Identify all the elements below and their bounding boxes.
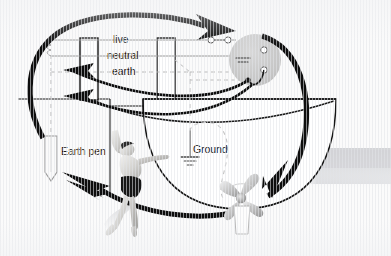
label-live: live [113, 34, 128, 45]
label-neutral: neutral [107, 50, 138, 61]
label-earth: earth [112, 66, 135, 77]
diagram-canvas: live neutral earth Earth pen Ground [0, 0, 391, 256]
label-ground: Ground [193, 144, 227, 155]
earth-pen-stake [45, 136, 57, 181]
diagram-svg [0, 0, 391, 256]
label-earth-pen: Earth pen [61, 146, 106, 157]
switch-contacts[interactable] [208, 37, 231, 43]
